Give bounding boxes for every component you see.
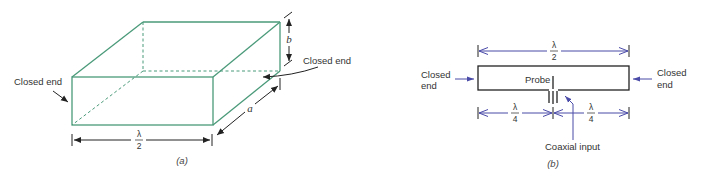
dimension-length xyxy=(72,134,212,146)
dim-total-numerator: λ xyxy=(552,40,557,50)
closed-end-arrow-right xyxy=(263,67,318,77)
dim-b-label: b xyxy=(286,33,292,45)
waveguide-cavity-diagram: λ 2 a b Closed end Closed end (a) xyxy=(0,0,704,182)
dim-total-denominator: 2 xyxy=(552,52,557,62)
coaxial-input-label: Coaxial input xyxy=(545,141,600,152)
closed-end-label-right-b-line1: Closed xyxy=(657,67,687,78)
probe-label: Probe xyxy=(525,74,550,85)
dim-left-denominator: 4 xyxy=(513,114,518,124)
dim-length-denominator: 2 xyxy=(137,141,142,151)
coax-leader-arrow xyxy=(565,96,573,104)
closed-end-label-left-b-line1: Closed xyxy=(421,69,451,80)
caption-b: (b) xyxy=(547,158,559,169)
closed-end-label-right-b-line2: end xyxy=(657,79,673,90)
dim-right-denominator: 4 xyxy=(589,114,594,124)
closed-end-arrow-left xyxy=(53,91,68,102)
dim-a-label: a xyxy=(247,102,253,114)
figure-b: λ 2 Probe Closed end Closed end xyxy=(421,40,687,169)
probe-gap xyxy=(549,89,558,91)
dim-right-numerator: λ xyxy=(589,102,594,112)
dim-left-numerator: λ xyxy=(513,102,518,112)
closed-end-label-left-b-line2: end xyxy=(421,80,437,91)
closed-end-label-right: Closed end xyxy=(303,55,351,66)
dimension-quarter xyxy=(478,107,629,119)
dim-length-numerator: λ xyxy=(137,129,142,139)
caption-a: (a) xyxy=(176,155,188,166)
figure-a: λ 2 a b Closed end Closed end (a) xyxy=(14,12,351,166)
closed-end-label-left: Closed end xyxy=(14,76,62,87)
